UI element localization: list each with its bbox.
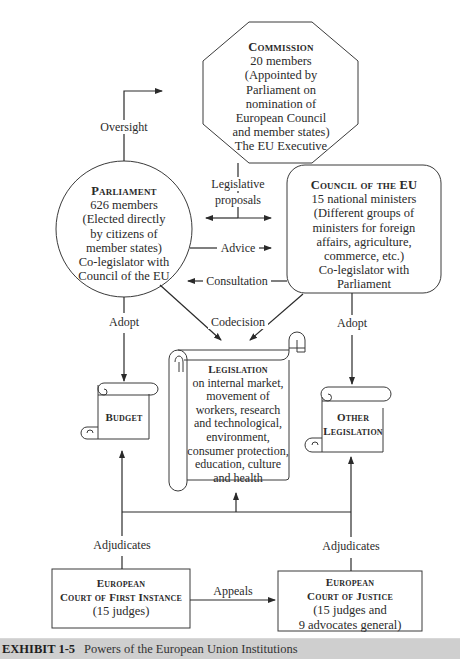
advice-label: Advice xyxy=(218,241,258,255)
codecision-label: Codecision xyxy=(208,315,268,329)
commission-line: 20 members xyxy=(203,54,359,68)
legislation-node: Legislation on internal market, movement… xyxy=(187,363,289,485)
court-first-instance-node: European Court of First Instance (15 jud… xyxy=(52,576,190,619)
legislation-line: education, culture xyxy=(187,458,289,472)
court-justice-title-2: Court of Justice xyxy=(278,589,422,603)
commission-line: (Appointed by xyxy=(203,68,359,82)
court-justice-line: 9 advocates general) xyxy=(278,618,422,632)
parliament-line: Council of the EU xyxy=(60,269,188,283)
exhibit-number: EXHIBIT 1-5 xyxy=(2,642,75,657)
legislation-line: consumer protection, xyxy=(187,445,289,459)
legislative-proposals-label-2: proposals xyxy=(207,193,269,207)
council-line: commerce, etc.) xyxy=(287,249,441,263)
legislation-title: Legislation xyxy=(187,363,289,377)
commission-line: nomination of xyxy=(203,97,359,111)
commission-title: Commission xyxy=(203,40,359,54)
council-node: Council of the EU 15 national ministers … xyxy=(287,178,441,292)
council-title: Council of the EU xyxy=(287,178,441,192)
budget-node: Budget xyxy=(98,410,150,424)
court-first-instance-line: (15 judges) xyxy=(52,604,190,618)
commission-line: The EU Executive xyxy=(203,139,359,153)
parliament-node: Parliament 626 members (Elected directly… xyxy=(60,184,188,283)
budget-title: Budget xyxy=(98,410,150,424)
council-line: ministers for foreign xyxy=(287,221,441,235)
adopt-left-label: Adopt xyxy=(104,315,144,329)
legislation-line: movement of xyxy=(187,390,289,404)
court-first-instance-title-2: Court of First Instance xyxy=(52,590,190,604)
parliament-line: by citizens of xyxy=(60,227,188,241)
council-line: Co-legislator with xyxy=(287,263,441,277)
other-legislation-node: Other Legislation xyxy=(318,410,388,438)
legislative-proposals-label-1: Legislative xyxy=(207,177,269,191)
appeals-label: Appeals xyxy=(210,584,256,598)
court-justice-node: European Court of Justice (15 judges and… xyxy=(278,575,422,632)
adopt-right-label: Adopt xyxy=(332,316,372,330)
adjudicates-left-label: Adjudicates xyxy=(88,538,156,552)
parliament-line: 626 members xyxy=(60,198,188,212)
court-justice-title-1: European xyxy=(278,575,422,589)
parliament-line: Co-legislator with xyxy=(60,255,188,269)
commission-node: Commission 20 members (Appointed by Parl… xyxy=(203,40,359,154)
exhibit-title: Powers of the European Union Institution… xyxy=(84,642,298,657)
commission-line: and member states) xyxy=(203,125,359,139)
commission-line: Parliament on xyxy=(203,83,359,97)
adjudicates-right-label: Adjudicates xyxy=(317,539,385,553)
other-legislation-title-1: Other xyxy=(318,410,388,424)
parliament-line: member states) xyxy=(60,241,188,255)
oversight-label: Oversight xyxy=(88,120,160,134)
legislation-line: environment, xyxy=(187,431,289,445)
court-first-instance-title-1: European xyxy=(52,576,190,590)
consultation-label: Consultation xyxy=(204,274,270,288)
codecision-arrow-left xyxy=(160,285,221,340)
council-line: affairs, agriculture, xyxy=(287,235,441,249)
parliament-title: Parliament xyxy=(60,184,188,198)
legislation-line: on internal market, xyxy=(187,377,289,391)
legislation-line: and technological, xyxy=(187,417,289,431)
council-line: 15 national ministers xyxy=(287,192,441,206)
council-line: Parliament xyxy=(287,277,441,291)
parliament-line: (Elected directly xyxy=(60,212,188,226)
council-line: (Different groups of xyxy=(287,206,441,220)
other-legislation-title-2: Legislation xyxy=(318,424,388,438)
court-justice-line: (15 judges and xyxy=(278,603,422,617)
caption-bar: EXHIBIT 1-5 Powers of the European Union… xyxy=(0,638,460,659)
legislation-line: workers, research xyxy=(187,404,289,418)
legislation-line: and health xyxy=(187,472,289,486)
commission-line: European Council xyxy=(203,111,359,125)
